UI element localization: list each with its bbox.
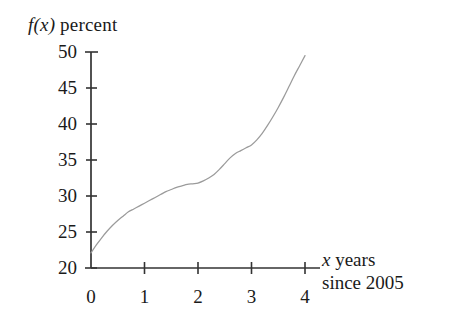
- y-tick-label: 45: [43, 78, 77, 97]
- y-tick-label: 25: [43, 222, 77, 241]
- axis-group: [91, 52, 320, 268]
- x-tick-label: 3: [242, 287, 262, 306]
- x-tick-label: 4: [295, 287, 315, 306]
- y-tick-label: 50: [43, 42, 77, 61]
- y-tick-label: 20: [43, 258, 77, 277]
- x-tick-label: 2: [188, 287, 208, 306]
- y-tick-label: 30: [43, 186, 77, 205]
- y-tick-label: 40: [43, 114, 77, 133]
- function-graph-figure: f(x) percent x years since 2005 50454035…: [0, 0, 450, 326]
- x-tick-label: 0: [81, 287, 101, 306]
- x-tick-label: 1: [135, 287, 155, 306]
- function-curve: [91, 56, 305, 253]
- y-tick-label: 35: [43, 150, 77, 169]
